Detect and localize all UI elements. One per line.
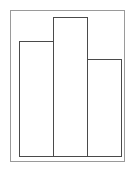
bar-1 bbox=[19, 41, 54, 157]
bar-2 bbox=[53, 17, 88, 157]
bar-3 bbox=[87, 59, 122, 157]
